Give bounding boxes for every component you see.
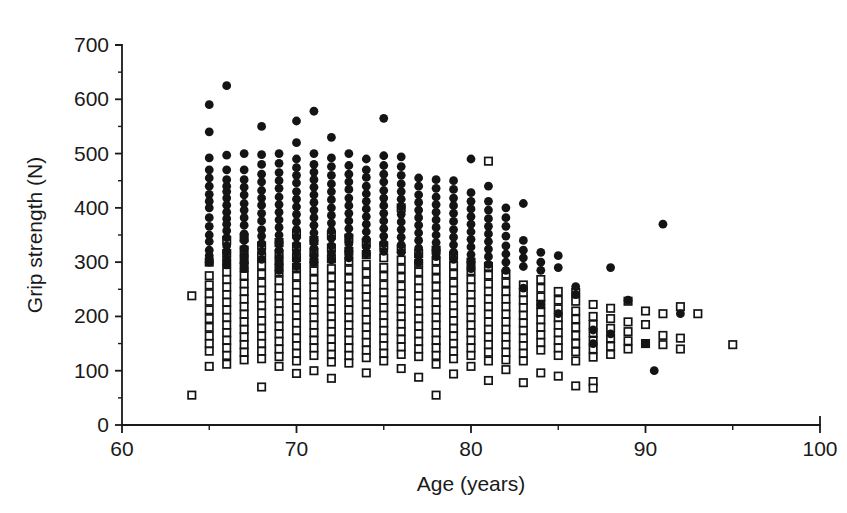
x-tick-label: 60	[110, 437, 133, 460]
data-point-square	[258, 383, 265, 390]
data-point-square	[363, 339, 370, 346]
data-point-circle	[257, 150, 266, 159]
data-point-square	[223, 344, 230, 351]
data-point-circle	[641, 339, 650, 348]
data-point-circle	[240, 206, 249, 215]
data-point-square	[450, 309, 457, 316]
data-point-circle	[379, 216, 388, 225]
data-point-square	[450, 325, 457, 332]
data-point-circle	[205, 182, 214, 191]
data-point-circle	[327, 219, 336, 228]
data-point-circle	[467, 188, 476, 197]
data-point-square	[363, 324, 370, 331]
data-point-square	[223, 329, 230, 336]
data-point-circle	[432, 231, 441, 240]
data-point-circle	[275, 266, 284, 275]
y-tick-label: 400	[74, 196, 109, 219]
data-point-square	[555, 344, 562, 351]
data-point-circle	[571, 290, 580, 299]
data-point-square	[258, 325, 265, 332]
data-point-square	[310, 344, 317, 351]
data-point-square	[188, 292, 195, 299]
data-point-circle	[205, 203, 214, 212]
data-point-circle	[362, 205, 371, 214]
y-tick-label: 0	[97, 413, 109, 436]
data-point-square	[502, 295, 509, 302]
data-point-square	[450, 279, 457, 286]
data-point-circle	[414, 182, 423, 191]
data-point-square	[659, 310, 666, 317]
data-point-square	[450, 302, 457, 309]
data-point-square	[328, 328, 335, 335]
data-point-circle	[502, 232, 511, 241]
data-point-circle	[344, 209, 353, 218]
data-point-square	[537, 285, 544, 292]
data-point-circle	[467, 220, 476, 229]
scatter-plot: 010020030040050060070060708090100Age (ye…	[0, 0, 847, 513]
data-point-square	[520, 334, 527, 341]
data-point-circle	[275, 231, 284, 240]
x-axis-title: Age (years)	[417, 472, 526, 495]
data-point-circle	[327, 133, 336, 142]
data-point-square	[432, 266, 439, 273]
data-point-square	[293, 357, 300, 364]
y-tick-label: 300	[74, 250, 109, 273]
data-point-circle	[484, 206, 493, 215]
data-point-square	[450, 355, 457, 362]
data-point-circle	[257, 170, 266, 179]
data-point-square	[607, 315, 614, 322]
data-point-square	[240, 288, 247, 295]
data-point-square	[380, 312, 387, 319]
data-point-circle	[205, 165, 214, 174]
data-point-circle	[432, 252, 441, 261]
data-point-circle	[484, 214, 493, 223]
data-point-circle	[240, 221, 249, 230]
data-point-square	[206, 315, 213, 322]
data-point-square	[555, 321, 562, 328]
data-point-circle	[379, 239, 388, 248]
data-point-circle	[222, 151, 231, 160]
data-point-circle	[449, 217, 458, 226]
data-point-square	[450, 347, 457, 354]
data-point-circle	[257, 247, 266, 256]
data-point-circle	[379, 224, 388, 233]
data-point-square	[467, 344, 474, 351]
data-point-circle	[502, 250, 511, 259]
data-point-square	[624, 345, 631, 352]
data-point-square	[485, 377, 492, 384]
data-point-square	[642, 321, 649, 328]
data-point-circle	[589, 339, 598, 348]
data-point-square	[694, 310, 701, 317]
data-point-square	[555, 329, 562, 336]
data-point-square	[328, 343, 335, 350]
data-point-circle	[292, 178, 301, 187]
data-point-square	[485, 311, 492, 318]
data-point-circle	[240, 175, 249, 184]
data-point-square	[293, 296, 300, 303]
data-point-square	[485, 288, 492, 295]
data-point-circle	[292, 262, 301, 271]
data-point-square	[223, 299, 230, 306]
data-point-square	[223, 276, 230, 283]
data-point-square	[258, 279, 265, 286]
data-point-circle	[240, 165, 249, 174]
x-tick-label: 100	[802, 437, 837, 460]
data-point-circle	[257, 201, 266, 210]
data-point-square	[572, 382, 579, 389]
data-point-circle	[292, 155, 301, 164]
data-point-square	[572, 332, 579, 339]
data-point-square	[240, 341, 247, 348]
data-point-square	[520, 296, 527, 303]
data-point-square	[450, 287, 457, 294]
data-point-circle	[205, 127, 214, 136]
data-point-square	[485, 333, 492, 340]
data-point-square	[206, 298, 213, 305]
data-point-square	[520, 350, 527, 357]
data-point-circle	[257, 255, 266, 264]
data-point-square	[328, 375, 335, 382]
data-points-layer	[188, 81, 736, 399]
data-point-square	[432, 344, 439, 351]
data-point-square	[467, 337, 474, 344]
data-point-square	[607, 305, 614, 312]
data-point-square	[467, 352, 474, 359]
